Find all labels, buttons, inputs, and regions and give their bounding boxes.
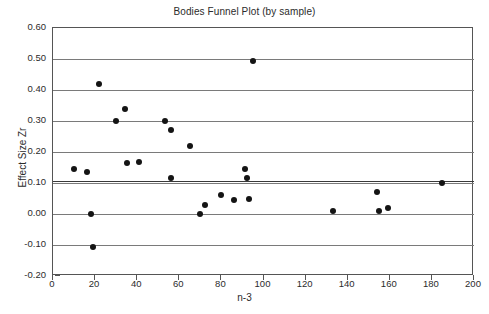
scatter-point <box>218 192 224 198</box>
funnel-plot-figure: Bodies Funnel Plot (by sample) Effect Si… <box>0 0 489 314</box>
scatter-point <box>124 160 130 166</box>
x-tick-mark <box>263 275 264 280</box>
scatter-point <box>168 127 174 133</box>
x-tick-label: 200 <box>453 279 489 289</box>
scatter-point <box>122 106 128 112</box>
scatter-point <box>242 166 248 172</box>
x-tick-label: 100 <box>243 279 283 289</box>
scatter-point <box>439 180 445 186</box>
scatter-point <box>250 58 256 64</box>
x-tick-label: 180 <box>411 279 451 289</box>
gridline-y <box>53 214 474 215</box>
x-tick-label: 40 <box>116 279 156 289</box>
scatter-point <box>162 118 168 124</box>
scatter-point <box>202 202 208 208</box>
gridline-y <box>53 245 474 246</box>
gridline-y <box>53 90 474 91</box>
scatter-point <box>385 205 391 211</box>
x-tick-mark <box>431 275 432 280</box>
scatter-point <box>187 143 193 149</box>
scatter-point <box>71 166 77 172</box>
mean-effect-line <box>53 181 474 182</box>
x-tick-label: 120 <box>285 279 325 289</box>
x-tick-mark <box>136 275 137 280</box>
x-tick-label: 60 <box>158 279 198 289</box>
scatter-point <box>246 196 252 202</box>
x-tick-label: 140 <box>327 279 367 289</box>
x-tick-mark <box>52 275 53 280</box>
plot-area <box>52 27 473 275</box>
gridline-y <box>53 59 474 60</box>
gridline-y <box>53 183 474 184</box>
scatter-point <box>231 197 237 203</box>
x-tick-label: 0 <box>32 279 72 289</box>
x-tick-label: 20 <box>74 279 114 289</box>
scatter-point <box>374 189 380 195</box>
gridline-y <box>53 152 474 153</box>
scatter-point <box>96 81 102 87</box>
scatter-point <box>376 208 382 214</box>
scatter-point <box>84 169 90 175</box>
x-tick-mark <box>220 275 221 280</box>
scatter-point <box>136 159 142 165</box>
x-tick-mark <box>178 275 179 280</box>
x-tick-label: 160 <box>369 279 409 289</box>
scatter-point <box>88 211 94 217</box>
scatter-point <box>90 244 96 250</box>
x-tick-label: 80 <box>200 279 240 289</box>
x-tick-mark <box>389 275 390 280</box>
scatter-point <box>197 211 203 217</box>
x-tick-mark <box>305 275 306 280</box>
x-tick-mark <box>347 275 348 280</box>
x-tick-mark <box>473 275 474 280</box>
scatter-point <box>113 118 119 124</box>
x-tick-mark <box>94 275 95 280</box>
scatter-point <box>330 208 336 214</box>
